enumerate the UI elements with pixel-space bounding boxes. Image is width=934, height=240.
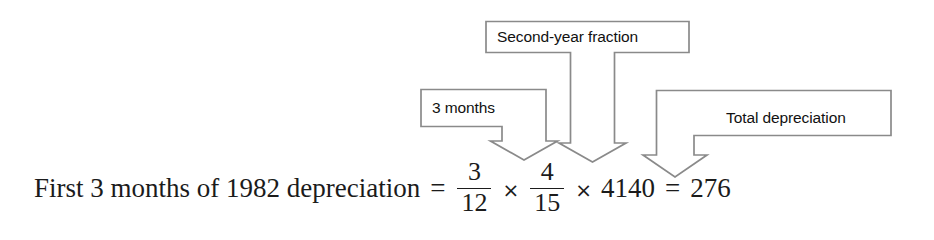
fraction-three-twelfths: 3 12	[457, 159, 491, 217]
fraction-1-denominator: 12	[457, 190, 491, 217]
equation-equals-sign-1: =	[430, 175, 445, 202]
equation-factor-value: 4140	[601, 175, 655, 202]
fraction-2-denominator: 15	[530, 190, 564, 217]
equation-lead-text: First 3 months of 1982 depreciation	[34, 175, 420, 202]
figure-container: Second-year fraction 3 months Total depr…	[0, 0, 934, 240]
callout-label-total-depreciation: Total depreciation	[726, 110, 846, 126]
equation-result-value: 276	[690, 175, 731, 202]
equation-line: First 3 months of 1982 depreciation = 3 …	[34, 160, 731, 218]
fraction-four-fifteenths: 4 15	[530, 159, 564, 217]
equation-multiply-sign-2: ×	[575, 180, 592, 200]
equation-multiply-sign-1: ×	[502, 180, 519, 200]
fraction-1-numerator: 3	[464, 159, 485, 186]
callout-label-second-year-fraction: Second-year fraction	[497, 29, 638, 45]
fraction-2-numerator: 4	[537, 159, 558, 186]
equation-equals-sign-2: =	[665, 175, 680, 202]
callout-label-three-months: 3 months	[432, 100, 495, 116]
